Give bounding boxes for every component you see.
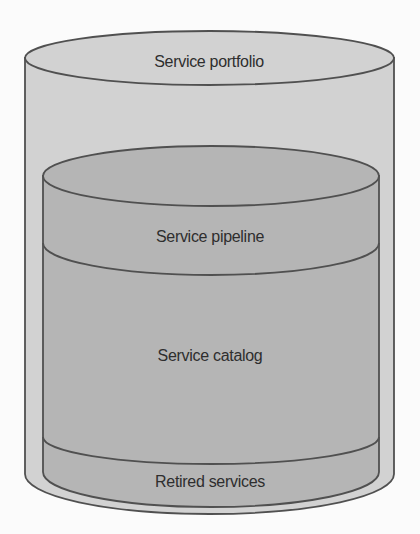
service-pipeline-label: Service pipeline (156, 228, 265, 245)
inner-cylinder-body (43, 176, 379, 507)
service-portfolio-label: Service portfolio (154, 53, 264, 70)
service-portfolio-diagram: Service portfolio Service pipeline Servi… (0, 0, 420, 534)
inner-cylinder: Service pipeline Service catalog Retired… (43, 146, 379, 507)
retired-services-label: Retired services (155, 473, 265, 490)
service-catalog-label: Service catalog (158, 347, 263, 364)
inner-cylinder-top (43, 146, 379, 206)
